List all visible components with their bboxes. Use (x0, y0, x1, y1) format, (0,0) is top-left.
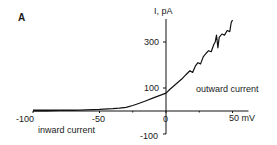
x-tick-label-50: 50 mV (229, 113, 255, 123)
inward-current-label: inward current (38, 125, 95, 135)
y-axis-title: I, pA (154, 6, 173, 16)
iv-curve-line (33, 20, 233, 111)
y-tick-label-100: 100 (144, 83, 159, 93)
x-tick-label-0: 0 (163, 114, 168, 124)
y-tick-label-neg100: -100 (140, 131, 158, 141)
outward-current-label: outward current (196, 84, 259, 94)
x-tick-label-neg50: -50 (92, 114, 105, 124)
panel-label: A (18, 13, 25, 23)
x-tick-label-neg100: -100 (16, 114, 34, 124)
y-tick-label-300: 300 (144, 37, 159, 47)
iv-curve-chart (0, 0, 277, 145)
